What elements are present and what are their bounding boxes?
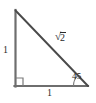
radicand-value: 2: [60, 32, 66, 43]
label-hypotenuse: √2: [55, 31, 66, 43]
label-horizontal-leg: 1: [47, 88, 52, 98]
label-angle-45: 45: [72, 72, 82, 81]
label-vertical-leg: 1: [3, 45, 8, 55]
right-angle-marker-icon: [16, 78, 24, 86]
geometry-figure: 1 1 45 √2: [0, 0, 96, 103]
